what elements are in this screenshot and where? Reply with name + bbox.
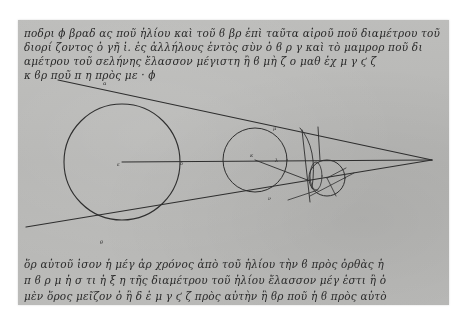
diagram-label: κ: [249, 152, 254, 158]
diagram-label: λ: [274, 157, 278, 163]
text-line: μὲν ὅρος μεῖζον ὁ ἢ δ ἐ μ γ ϛ ζ πρὸς αὐτ…: [24, 288, 443, 305]
diagram-label: δ: [180, 160, 183, 166]
diagram-label: θ: [100, 239, 103, 245]
diagram-label: ν: [268, 195, 271, 201]
manuscript-page: ποδρι ϕ βραδ ας ποῦ ἡλίου καὶ τοῦ ϐ βρ ἐ…: [18, 20, 449, 305]
diagram-label: α: [103, 80, 107, 86]
text-line: ὅρ αὐτοῦ ἰσον ἡ μέγ ἀρ χρόνος ἀπὸ τοῦ ἡλ…: [24, 256, 443, 273]
text-line: π ϐ ρ μ ἡ σ τι ἡ ξ η τῆς διαμέτρου τοῦ ἡ…: [24, 272, 443, 289]
diagram-label: μ: [273, 125, 276, 132]
manuscript-text-bottom: ὅρ αὐτοῦ ἰσον ἡ μέγ ἀρ χρόνος ἀπὸ τοῦ ἡλ…: [24, 256, 443, 304]
diagram-label: ε: [117, 161, 120, 167]
